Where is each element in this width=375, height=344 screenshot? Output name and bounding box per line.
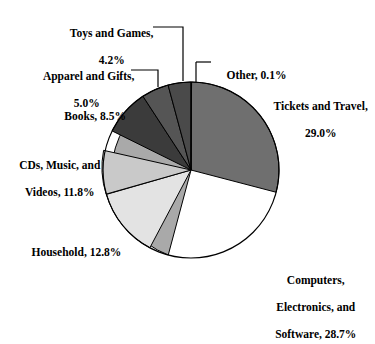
slice-label-computers-line3: Software, 28.7% <box>275 328 356 340</box>
slice-label-cds-music-videos: CDs, Music, and Videos, 11.8% <box>2 145 106 213</box>
slice-label-books-line1: Books, 8.5% <box>64 110 126 122</box>
slice-label-computers-line1: Computers, <box>287 274 345 286</box>
slice-label-toys-and-games-line1: Toys and Games, <box>70 27 154 39</box>
pie-slice-other[interactable] <box>191 82 192 170</box>
slice-label-computers-line2: Electronics, and <box>276 301 355 313</box>
slice-label-computers-electronics-software: Computers, Electronics, and Software, 28… <box>252 260 368 344</box>
slice-label-tickets-and-travel: Tickets and Travel, 29.0% <box>258 86 372 154</box>
slice-label-cds-music-videos-line1: CDs, Music, and <box>19 159 100 171</box>
slice-label-household-line1: Household, 12.8% <box>32 246 122 258</box>
slice-label-cds-music-videos-line2: Videos, 11.8% <box>25 186 95 198</box>
slice-label-other-line1: Other, 0.1% <box>227 69 287 81</box>
slice-label-apparel-and-gifts-line1: Apparel and Gifts, <box>43 70 134 82</box>
slice-label-household: Household, 12.8% <box>20 232 140 273</box>
slice-label-tickets-and-travel-line2: 29.0% <box>305 127 337 139</box>
slice-label-books: Books, 8.5% <box>22 96 126 137</box>
slice-label-tickets-and-travel-line1: Tickets and Travel, <box>274 100 368 112</box>
